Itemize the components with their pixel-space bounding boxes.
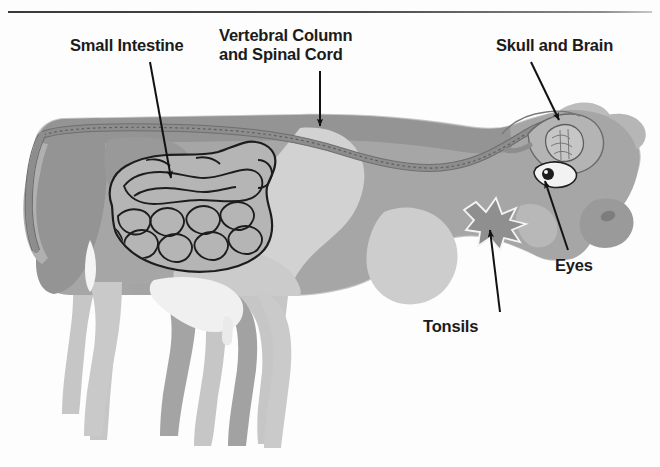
label-vertebral-line-1: Vertebral Column <box>219 26 352 44</box>
cow-teat <box>222 316 233 345</box>
small-intestine-group <box>110 142 276 272</box>
cow-anatomy-illustration <box>0 0 660 467</box>
diagram-page: Small Intestine Vertebral Columnand Spin… <box>0 0 660 467</box>
label-skull-and-brain: Skull and Brain <box>496 36 613 55</box>
label-eyes: Eyes <box>555 256 593 275</box>
label-small-intestine: Small Intestine <box>70 36 183 55</box>
label-tonsils: Tonsils <box>423 317 478 336</box>
label-vertebral-column: Vertebral Columnand Spinal Cord <box>219 26 352 64</box>
label-vertebral-line-2: and Spinal Cord <box>219 45 343 63</box>
brain-outline <box>546 125 584 162</box>
cow-body-group <box>23 103 646 448</box>
eye-highlight <box>544 170 548 174</box>
eye-pupil <box>542 168 554 180</box>
cow-muzzle <box>580 198 634 248</box>
leader-skull-brain <box>531 62 559 120</box>
